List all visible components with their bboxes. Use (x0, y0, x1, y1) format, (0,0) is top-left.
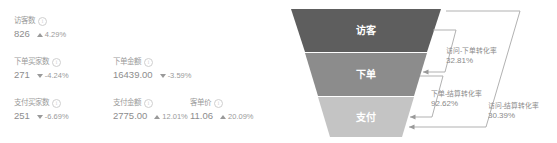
metric-body: 251 -6.69% (14, 110, 69, 123)
metric-label: 客单价 (190, 98, 211, 108)
metric-delta-text: -6.69% (45, 111, 69, 123)
info-icon[interactable]: i (144, 99, 153, 108)
metric-header: 支付买家数 i (14, 98, 69, 108)
trend-down-icon (160, 74, 166, 78)
metric-value: 251 (14, 110, 30, 122)
metric-header: 客单价 i (190, 98, 254, 108)
annotation-value: 92.62% (431, 99, 482, 109)
trend-down-icon (37, 115, 43, 119)
annotation-label: 下单-结算转化率 (431, 89, 482, 98)
annotation-value: 30.39% (488, 111, 539, 121)
metric-visitors: 访客数 i 826 4.29% (14, 16, 66, 41)
metric-header: 访客数 i (14, 16, 66, 26)
metric-value: 16439.00 (113, 69, 153, 81)
metric-body: 826 4.29% (14, 28, 66, 41)
funnel-chart: 访客 下单 支付 访问-下单转化率 32.81% 下单-结算转化率 92 (280, 0, 557, 143)
metric-header: 下单买家数 i (14, 57, 69, 67)
dashboard-panel: 访客数 i 826 4.29% 下单买家数 i 271 -4.24 (0, 0, 557, 143)
funnel-segment-label-payments: 支付 (355, 111, 376, 123)
annotation-visit-to-order: 访问-下单转化率 32.81% (446, 46, 497, 66)
metric-label: 支付金额 (113, 98, 141, 108)
info-icon[interactable]: i (38, 17, 47, 26)
metrics-panel: 访客数 i 826 4.29% 下单买家数 i 271 -4.24 (0, 0, 280, 143)
metric-label: 下单金额 (113, 57, 141, 67)
info-icon[interactable]: i (214, 99, 223, 108)
metric-delta-text: 12.01% (162, 111, 187, 123)
metric-order-amount: 下单金额 i 16439.00 -3.59% (113, 57, 191, 82)
metric-header: 下单金额 i (113, 57, 191, 67)
metric-value: 271 (14, 69, 30, 81)
metric-body: 11.06 20.09% (190, 110, 254, 123)
info-icon[interactable]: i (52, 99, 61, 108)
trend-up-icon (154, 115, 160, 119)
metric-delta: 12.01% (154, 111, 187, 123)
metric-body: 16439.00 -3.59% (113, 69, 191, 82)
info-icon[interactable]: i (52, 58, 61, 67)
funnel-segment-label-orders: 下单 (356, 68, 376, 80)
metric-label: 支付买家数 (14, 98, 49, 108)
funnel-svg: 访客 下单 支付 (280, 0, 557, 143)
funnel-segment-label-visitors: 访客 (356, 24, 377, 36)
metric-label: 下单买家数 (14, 57, 49, 67)
metric-delta: 20.09% (220, 111, 253, 123)
metric-body: 2775.00 12.01% (113, 110, 188, 123)
metric-delta: 4.29% (37, 29, 66, 41)
trend-up-icon (37, 33, 43, 37)
metric-label: 访客数 (14, 16, 35, 26)
metric-header: 支付金额 i (113, 98, 188, 108)
annotation-label: 访问-结算转化率 (488, 101, 539, 110)
connector-arrow-order-to-payment (410, 115, 416, 120)
metric-delta-text: 20.09% (228, 111, 253, 123)
metric-avg-order-value: 客单价 i 11.06 20.09% (190, 98, 254, 123)
metric-order-buyers: 下单买家数 i 271 -4.24% (14, 57, 69, 82)
annotation-order-to-payment: 下单-结算转化率 92.62% (431, 89, 482, 109)
annotation-visit-to-payment: 访问-结算转化率 30.39% (488, 101, 539, 121)
annotation-value: 32.81% (446, 56, 497, 66)
metric-paid-buyers: 支付买家数 i 251 -6.69% (14, 98, 69, 123)
metric-value: 11.06 (190, 110, 213, 122)
metric-paid-amount: 支付金额 i 2775.00 12.01% (113, 98, 188, 123)
metric-delta: -4.24% (37, 70, 69, 82)
metric-value: 2775.00 (113, 110, 147, 122)
connector-arrow-visit-to-payment (409, 125, 415, 130)
metric-delta-text: 4.29% (45, 29, 66, 41)
trend-down-icon (37, 74, 43, 78)
info-icon[interactable]: i (144, 58, 153, 67)
metric-delta-text: -3.59% (168, 70, 192, 82)
annotation-label: 访问-下单转化率 (446, 46, 497, 55)
metric-delta: -3.59% (160, 70, 192, 82)
metric-delta: -6.69% (37, 111, 69, 123)
connector-arrow-visit-to-order (423, 70, 429, 75)
metric-body: 271 -4.24% (14, 69, 69, 82)
trend-up-icon (220, 115, 226, 119)
metric-value: 826 (14, 28, 30, 40)
metric-delta-text: -4.24% (45, 70, 69, 82)
